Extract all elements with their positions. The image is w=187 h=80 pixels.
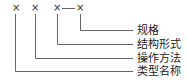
leader-line-type [16, 14, 134, 72]
leader-line-spec [81, 14, 134, 31]
leader-line-structure [58, 14, 134, 45]
label-structure: 结构形式 [137, 38, 181, 51]
label-spec: 规格 [137, 24, 159, 37]
code-mark-4: × [76, 3, 84, 13]
code-mark-1: × [12, 3, 20, 13]
code-mark-3: × [53, 3, 61, 13]
leader-line-operation [36, 14, 134, 59]
label-operation: 操作方法 [137, 52, 181, 65]
label-type: 类型名称 [137, 65, 181, 78]
code-mark-2: × [31, 3, 39, 13]
